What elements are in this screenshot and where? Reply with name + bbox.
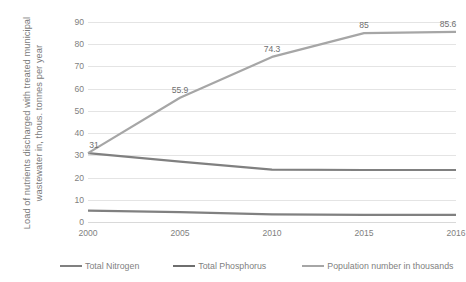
y-axis-tick-label: 0 <box>60 218 84 227</box>
data-label: 31 <box>89 141 99 150</box>
gridline <box>88 222 456 223</box>
legend-label: Total Nitrogen <box>85 261 139 271</box>
legend-item[interactable]: Total Phosphorus <box>173 261 266 271</box>
data-label: 74.3 <box>264 45 281 54</box>
x-axis-tick-label: 2000 <box>78 228 97 238</box>
legend-label: Population number in thousands <box>327 261 453 271</box>
y-axis-tick-label: 70 <box>60 62 84 71</box>
series-line <box>88 211 456 215</box>
y-axis-tick-label: 20 <box>60 173 84 182</box>
x-axis-tick-label: 2005 <box>170 228 189 238</box>
y-axis-title: Load of nutrients discharged with treate… <box>7 13 59 233</box>
plot-area: 3155.974.38585.6 <box>88 22 456 222</box>
series-line <box>88 153 456 170</box>
legend-swatch <box>302 265 324 267</box>
y-axis-tick-label: 60 <box>60 84 84 93</box>
x-axis-tick-label: 2010 <box>262 228 281 238</box>
chart-legend: Total NitrogenTotal PhosphorusPopulation… <box>60 258 460 274</box>
x-axis-tick-label: 2016 <box>446 228 465 238</box>
y-axis-tick-label: 80 <box>60 40 84 49</box>
data-label: 55.9 <box>172 86 189 95</box>
legend-swatch <box>173 265 195 267</box>
y-axis-title-text: Load of nutrients discharged with treate… <box>21 16 46 230</box>
legend-item[interactable]: Population number in thousands <box>302 261 453 271</box>
y-axis-tick-labels: 0102030405060708090 <box>60 22 84 222</box>
y-axis-tick-label: 50 <box>60 107 84 116</box>
legend-swatch <box>60 265 82 267</box>
legend-item[interactable]: Total Nitrogen <box>60 261 139 271</box>
y-axis-tick-label: 30 <box>60 151 84 160</box>
y-axis-tick-label: 40 <box>60 129 84 138</box>
data-label: 85 <box>359 21 369 30</box>
data-label: 85.6 <box>440 20 457 29</box>
legend-label: Total Phosphorus <box>198 261 266 271</box>
y-axis-tick-label: 90 <box>60 18 84 27</box>
y-axis-tick-label: 10 <box>60 195 84 204</box>
x-axis-tick-label: 2015 <box>354 228 373 238</box>
x-axis-tick-labels: 20002005201020152016 <box>88 228 456 242</box>
